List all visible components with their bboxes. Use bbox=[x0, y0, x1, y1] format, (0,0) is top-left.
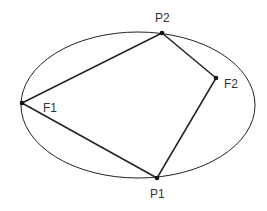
segment-f1-p2 bbox=[22, 33, 162, 103]
point-p2 bbox=[160, 31, 165, 36]
label-p2: P2 bbox=[155, 11, 170, 25]
point-f2 bbox=[214, 76, 219, 81]
point-p1 bbox=[155, 176, 160, 181]
segment-f2-p1 bbox=[157, 78, 216, 178]
label-f2: F2 bbox=[224, 77, 238, 91]
point-f1 bbox=[20, 101, 25, 106]
label-p1: P1 bbox=[150, 187, 165, 201]
ellipse-foci-diagram: P2F2F1P1 bbox=[0, 0, 267, 211]
points: P2F2F1P1 bbox=[20, 11, 239, 201]
segment-p2-f2 bbox=[162, 33, 216, 78]
label-f1: F1 bbox=[43, 101, 57, 115]
